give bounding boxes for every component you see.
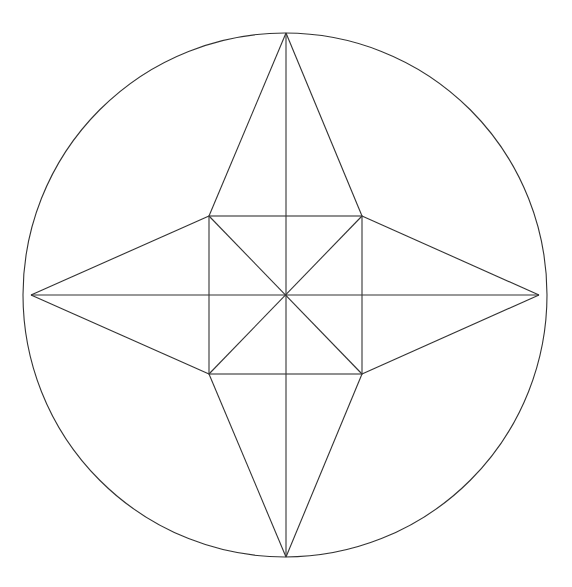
star-edge [31,216,209,295]
star-edge [286,374,362,557]
star-edge [362,295,539,374]
star-edge [209,33,286,216]
star-edge [31,295,209,374]
star-edge [362,216,539,295]
star-diagram [0,0,572,587]
star-edge [209,374,286,557]
star-edge [286,33,362,216]
